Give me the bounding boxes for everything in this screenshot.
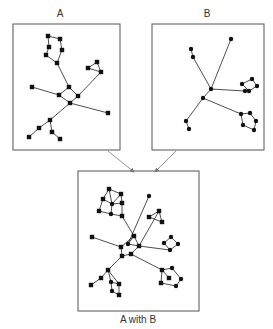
node-combined	[97, 209, 101, 213]
node-a	[95, 60, 99, 64]
node-a	[60, 48, 64, 52]
node-b	[201, 96, 205, 100]
graph-edges	[29, 36, 257, 295]
edge-b	[211, 39, 231, 89]
merge-arrows	[108, 151, 176, 172]
node-a	[46, 34, 50, 38]
node-a	[44, 53, 48, 57]
node-combined	[179, 277, 183, 281]
node-combined	[119, 245, 123, 249]
node-combined	[157, 209, 161, 213]
node-a	[50, 130, 54, 134]
edge-a	[32, 87, 59, 95]
node-b	[184, 119, 188, 123]
panel-b-title: B	[197, 8, 217, 19]
node-combined	[120, 254, 124, 258]
node-b	[189, 47, 193, 51]
node-a	[57, 93, 61, 97]
node-b	[247, 89, 251, 93]
node-combined	[162, 241, 166, 245]
node-b	[191, 55, 195, 59]
node-combined	[99, 276, 103, 280]
edge-b	[186, 98, 203, 121]
node-a	[30, 85, 34, 89]
node-a	[68, 101, 72, 105]
node-combined	[110, 289, 114, 293]
edge-combined	[128, 196, 149, 244]
node-combined	[117, 282, 121, 286]
node-combined	[147, 194, 151, 198]
node-combined	[110, 202, 114, 206]
edge-a	[78, 72, 101, 96]
node-b	[239, 112, 243, 116]
node-combined	[137, 244, 141, 248]
arrow	[108, 151, 134, 172]
node-b	[240, 82, 244, 86]
graph-nodes	[27, 34, 259, 297]
node-combined	[174, 284, 178, 288]
node-b	[229, 37, 233, 41]
node-combined	[109, 212, 113, 216]
node-combined	[126, 242, 130, 246]
panel-frames	[13, 24, 264, 311]
node-combined	[109, 280, 113, 284]
node-b	[255, 84, 259, 88]
edge-combined	[139, 246, 170, 250]
node-combined	[101, 197, 105, 201]
frame-a	[13, 24, 120, 150]
node-combined	[169, 235, 173, 239]
node-a	[58, 137, 62, 141]
frame-b	[152, 24, 264, 150]
node-a	[27, 135, 31, 139]
node-combined	[159, 281, 163, 285]
node-a	[47, 45, 51, 49]
node-a	[67, 85, 71, 89]
edge-b	[203, 98, 241, 114]
node-combined	[89, 283, 93, 287]
node-a	[76, 94, 80, 98]
node-b	[254, 119, 258, 123]
edge-a	[70, 103, 108, 113]
edge-combined	[92, 237, 121, 247]
node-a	[58, 37, 62, 41]
node-a	[86, 66, 90, 70]
edge-combined	[109, 189, 112, 204]
arrow	[155, 151, 176, 172]
node-b	[248, 111, 252, 115]
node-b	[209, 87, 213, 91]
node-combined	[168, 248, 172, 252]
node-combined	[160, 268, 164, 272]
node-combined	[160, 220, 164, 224]
network-merge-diagram	[0, 0, 273, 329]
node-combined	[147, 215, 151, 219]
edge-combined	[122, 216, 134, 236]
node-combined	[106, 268, 110, 272]
node-combined	[129, 252, 133, 256]
node-b	[187, 127, 191, 131]
edge-a	[57, 63, 69, 87]
node-combined	[90, 235, 94, 239]
node-a	[55, 61, 59, 65]
edge-a	[50, 103, 70, 120]
node-b	[241, 123, 245, 127]
edge-combined	[131, 254, 162, 270]
node-combined	[120, 214, 124, 218]
panel-combined-title: A with B	[98, 314, 178, 325]
node-a	[106, 111, 110, 115]
edge-b	[211, 89, 245, 91]
edge-b	[193, 57, 211, 89]
node-b	[243, 89, 247, 93]
node-combined	[107, 187, 111, 191]
node-a	[37, 126, 41, 130]
node-combined	[170, 266, 174, 270]
node-combined	[117, 293, 121, 297]
node-b	[250, 77, 254, 81]
node-combined	[167, 276, 171, 280]
panel-a-title: A	[50, 8, 70, 19]
frame-combined	[78, 171, 199, 311]
node-combined	[176, 242, 180, 246]
node-combined	[119, 192, 123, 196]
node-a	[99, 70, 103, 74]
node-combined	[132, 234, 136, 238]
node-b	[252, 128, 256, 132]
